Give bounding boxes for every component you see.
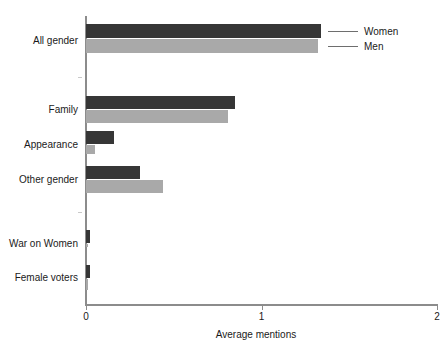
x-axis-title-text: Average mentions bbox=[216, 329, 296, 340]
category-label-all-gender: All gender bbox=[33, 35, 78, 46]
y-tick-blank-2 bbox=[78, 212, 82, 213]
x-tick-0 bbox=[86, 305, 87, 310]
category-label-family: Family bbox=[49, 104, 78, 115]
bar-other-gender-men bbox=[86, 180, 163, 193]
bar-war-on-women-women bbox=[86, 230, 90, 243]
bar-female-voters-women bbox=[86, 265, 90, 278]
category-label-other-gender: Other gender bbox=[19, 174, 78, 185]
x-tick-label-0: 0 bbox=[83, 311, 89, 322]
x-tick-label-2: 2 bbox=[434, 311, 440, 322]
horizontal-bar-chart: 0 1 2 Average mentions All gender Family… bbox=[0, 0, 448, 351]
category-label-female-voters: Female voters bbox=[15, 272, 78, 283]
legend-label-men: Men bbox=[364, 41, 383, 52]
legend-leader-women bbox=[328, 31, 358, 32]
bar-all-gender-men bbox=[86, 39, 318, 53]
bar-appearance-men bbox=[86, 145, 95, 154]
bar-other-gender-women bbox=[86, 166, 140, 179]
x-tick-label-1: 1 bbox=[259, 311, 265, 322]
x-tick-1 bbox=[262, 305, 263, 310]
bar-war-on-women-men bbox=[86, 244, 88, 247]
bar-family-men bbox=[86, 110, 228, 123]
x-axis-title: Average mentions bbox=[0, 329, 448, 340]
category-label-war-on-women: War on Women bbox=[9, 238, 78, 249]
bar-female-voters-men bbox=[86, 279, 88, 290]
bar-all-gender-women bbox=[86, 24, 321, 38]
y-axis-line bbox=[85, 16, 87, 305]
bar-family-women bbox=[86, 96, 235, 109]
y-tick-blank-1 bbox=[78, 77, 82, 78]
legend-leader-men bbox=[328, 46, 358, 47]
x-tick-2 bbox=[437, 305, 438, 310]
legend-label-women: Women bbox=[364, 26, 398, 37]
category-label-appearance: Appearance bbox=[24, 139, 78, 150]
bar-appearance-women bbox=[86, 131, 114, 144]
